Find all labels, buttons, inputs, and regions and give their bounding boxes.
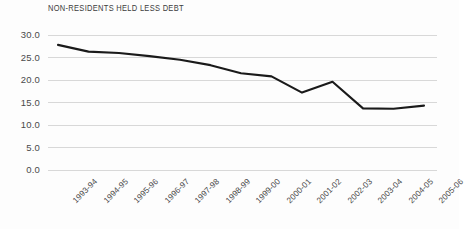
data-series-line <box>58 45 424 109</box>
gridlines-group <box>48 35 437 170</box>
